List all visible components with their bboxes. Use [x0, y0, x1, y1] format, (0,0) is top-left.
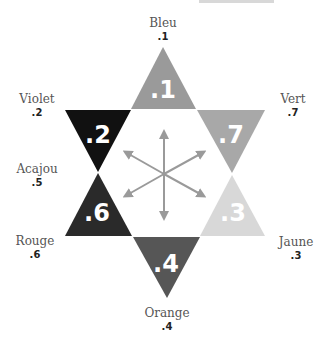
svg-text:.4: .4	[153, 250, 179, 278]
label-vert: Vert .7	[258, 93, 328, 119]
label-name: Bleu	[128, 17, 198, 30]
label-rouge: Rouge .6	[0, 235, 70, 261]
triangle-jaune: .3	[200, 175, 265, 236]
arrow-upper-left-icon	[127, 153, 164, 174]
arrow-lower-left-icon	[127, 174, 164, 195]
label-value: .5	[2, 176, 72, 189]
triangle-rouge: .6	[65, 173, 132, 236]
label-value: .1	[128, 30, 198, 43]
triangle-vert: .7	[197, 110, 265, 173]
label-name: Jaune	[261, 236, 329, 249]
label-value: .4	[132, 320, 202, 333]
label-acajou: Acajou .5	[2, 163, 72, 189]
label-name: Vert	[258, 93, 328, 106]
arrow-upper-right-icon	[164, 153, 202, 174]
triangle-orange: .4	[133, 237, 200, 298]
label-value: .6	[0, 248, 70, 261]
triangle-violet: .2	[65, 110, 131, 172]
svg-text:.2: .2	[85, 121, 111, 149]
label-name: Orange	[132, 307, 202, 320]
svg-text:.7: .7	[218, 121, 244, 149]
label-value: .2	[2, 106, 72, 119]
svg-text:.3: .3	[220, 199, 246, 227]
label-value: .7	[258, 106, 328, 119]
label-name: Violet	[2, 93, 72, 106]
arrows	[127, 134, 202, 216]
label-violet: Violet .2	[2, 93, 72, 119]
label-bleu: Bleu .1	[128, 17, 198, 43]
label-orange: Orange .4	[132, 307, 202, 333]
label-name: Rouge	[0, 235, 70, 248]
arrow-lower-right-icon	[164, 174, 202, 195]
svg-text:.6: .6	[84, 199, 110, 227]
label-jaune: Jaune .3	[261, 236, 329, 262]
label-value: .3	[261, 249, 329, 262]
svg-text:.1: .1	[150, 76, 176, 104]
label-name: Acajou	[2, 163, 72, 176]
triangle-bleu: .1	[131, 47, 196, 109]
